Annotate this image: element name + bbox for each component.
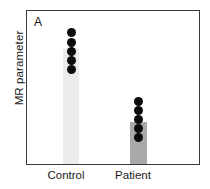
data-point-control-2 — [67, 38, 76, 47]
y-axis-label: MR parameter — [11, 18, 27, 118]
data-point-patient-2 — [134, 106, 143, 115]
data-point-control-3 — [67, 47, 76, 56]
panel-label: A — [34, 16, 42, 28]
mr-parameter-bar-chart-figure: MR parameter A Control Patient — [0, 0, 210, 189]
x-tick-label-control: Control — [38, 168, 94, 182]
data-point-patient-5 — [134, 133, 143, 142]
plot-frame: A — [26, 10, 200, 165]
data-point-control-4 — [67, 56, 76, 65]
data-point-control-1 — [67, 28, 76, 37]
data-point-control-5 — [67, 65, 76, 74]
data-point-patient-4 — [134, 124, 143, 133]
data-point-patient-1 — [134, 97, 143, 106]
data-point-patient-3 — [134, 115, 143, 124]
x-tick-label-patient: Patient — [105, 168, 161, 182]
